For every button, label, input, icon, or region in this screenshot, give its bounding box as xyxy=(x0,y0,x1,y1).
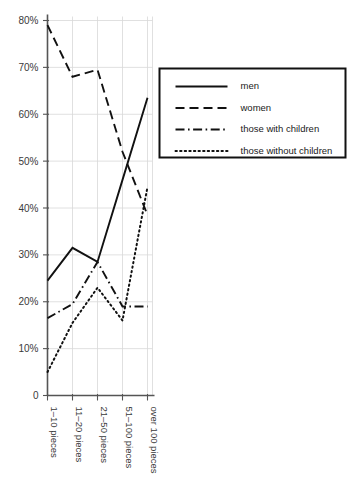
y-tick-label: 10% xyxy=(18,343,38,354)
y-tick-label: 70% xyxy=(18,62,38,73)
legend-label: men xyxy=(241,80,259,91)
legend-label: those with children xyxy=(241,123,320,134)
chart-canvas: 010%20%30%40%50%60%70%80% 1–10 pieces11–… xyxy=(0,0,354,493)
y-tick-label: 80% xyxy=(18,15,38,26)
line-chart: 010%20%30%40%50%60%70%80% 1–10 pieces11–… xyxy=(0,0,354,493)
chart-legend: menwomenthose with childrenthose without… xyxy=(160,69,346,158)
y-tick-label: 50% xyxy=(18,156,38,167)
y-tick-label: 30% xyxy=(18,249,38,260)
x-tick-label: 51–100 pieces xyxy=(124,407,135,469)
gridlines xyxy=(48,17,153,396)
y-axis-tick-labels: 010%20%30%40%50%60%70%80% xyxy=(18,15,38,401)
x-tick-label: 1–10 pieces xyxy=(49,407,60,458)
x-tick-label: 11–20 pieces xyxy=(74,407,85,463)
legend-label: women xyxy=(240,102,272,113)
y-tick-label: 40% xyxy=(18,203,38,214)
legend-label: those without children xyxy=(241,145,333,156)
x-tick-label: 21–50 pieces xyxy=(99,407,110,464)
y-tick-label: 60% xyxy=(18,109,38,120)
x-axis-tick-labels: 1–10 pieces11–20 pieces21–50 pieces51–10… xyxy=(49,407,160,474)
y-tick-label: 20% xyxy=(18,296,38,307)
x-tick-label: over 100 pieces xyxy=(149,407,160,474)
y-tick-label: 0 xyxy=(33,390,39,401)
